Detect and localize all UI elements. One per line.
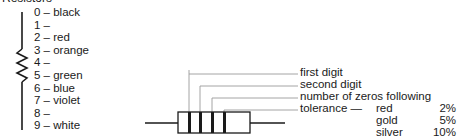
- code-row: 0 – black: [34, 6, 89, 19]
- code-row: 2 – red: [34, 31, 89, 44]
- band-3: [211, 112, 214, 133]
- label-zeros-following: number of zeros following: [300, 90, 431, 102]
- label-first-digit: first digit: [300, 66, 343, 78]
- code-row: 6 – blue: [34, 82, 89, 95]
- code-row: 3 – orange: [34, 44, 89, 57]
- code-row: 4 –: [34, 56, 89, 69]
- code-row: 9 – white: [34, 119, 89, 132]
- code-row: 1 –: [34, 19, 89, 32]
- band-2: [199, 112, 202, 133]
- code-row: 5 – green: [34, 69, 89, 82]
- leader-lines: [189, 74, 298, 114]
- code-row: 7 – violet: [34, 94, 89, 107]
- code-row: 8 –: [34, 107, 89, 120]
- resistor-component: [145, 112, 285, 133]
- label-tolerance: tolerance —: [300, 102, 362, 114]
- resistor-symbol-icon: [17, 12, 27, 130]
- band-4: [223, 112, 226, 133]
- band-1: [188, 112, 191, 133]
- label-second-digit: second digit: [300, 78, 361, 90]
- color-code-list: 0 – black 1 – 2 – red 3 – orange 4 – 5 –…: [34, 6, 89, 132]
